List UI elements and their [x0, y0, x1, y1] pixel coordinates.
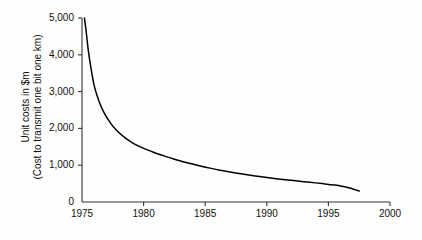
y-axis-tick-label: 0 [32, 196, 74, 207]
y-axis-tick-label: 5,000 [32, 12, 74, 23]
y-axis-title: Unit costs in $m (Cost to transmit one b… [20, 12, 44, 202]
y-axis-title-line-1: Unit costs in $m [20, 12, 32, 202]
x-axis-tick-label: 1990 [242, 208, 292, 219]
x-axis-tick-label: 1980 [119, 208, 169, 219]
x-axis-tick-label: 1975 [57, 208, 107, 219]
x-axis-tick-label: 1995 [303, 208, 353, 219]
y-axis-tick-label: 4,000 [32, 49, 74, 60]
chart-container: Unit costs in $m (Cost to transmit one b… [0, 0, 422, 240]
x-axis-tick-label: 2000 [365, 208, 415, 219]
y-axis-tick-label: 1,000 [32, 159, 74, 170]
y-axis-title-line-2: (Cost to transmit one bit one km) [32, 12, 44, 202]
x-axis-tick-label: 1985 [180, 208, 230, 219]
y-axis-tick-label: 2,000 [32, 122, 74, 133]
y-axis-tick-label: 3,000 [32, 86, 74, 97]
